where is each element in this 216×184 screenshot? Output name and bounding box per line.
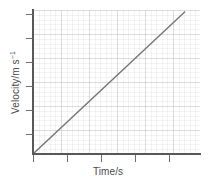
- y-axis-tick: [26, 110, 33, 111]
- x-axis-tick: [169, 155, 170, 162]
- y-axis-tick: [26, 14, 33, 15]
- x-axis-tick: [135, 155, 136, 162]
- x-axis-label: Time/s: [0, 166, 216, 177]
- velocity-line: [33, 12, 185, 154]
- plot-area: [33, 10, 200, 154]
- y-axis-tick: [26, 134, 33, 135]
- x-axis-tick: [33, 155, 34, 162]
- y-axis-tick: [26, 38, 33, 39]
- y-axis-label-superscript: −1: [8, 51, 15, 59]
- y-axis-label: Velocity/m s−1: [10, 51, 21, 114]
- y-axis-tick: [26, 86, 33, 87]
- x-axis-line: [32, 153, 201, 155]
- data-series-layer: [33, 10, 200, 154]
- y-axis-label-container: Velocity/m s−1: [4, 0, 26, 164]
- velocity-time-graph-figure: Velocity/m s−1 Time/s: [0, 0, 216, 184]
- y-axis-tick: [26, 62, 33, 63]
- y-axis-label-text: Velocity/m s: [10, 59, 21, 114]
- x-axis-tick: [101, 155, 102, 162]
- x-axis-tick: [67, 155, 68, 162]
